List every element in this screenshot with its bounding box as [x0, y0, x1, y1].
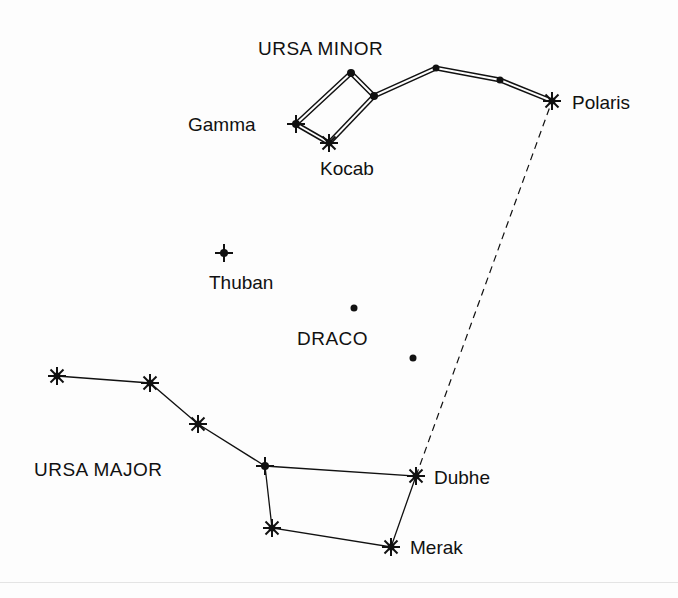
star-icon: [256, 457, 274, 475]
merak-star-icon: [382, 538, 400, 556]
ursa-major-label: URSA MAJOR: [34, 460, 163, 479]
star-chart: URSA MINOR Polaris Gamma Kocab Thuban DR…: [0, 0, 678, 598]
star-dot-icon: [351, 305, 358, 312]
star-icon: [263, 519, 281, 537]
star-chart-graphic: [0, 0, 678, 598]
thuban-label: Thuban: [209, 273, 273, 292]
kocab-label: Kocab: [320, 159, 374, 178]
ursa-minor-lines-inner: [296, 68, 552, 143]
gamma-label: Gamma: [188, 115, 256, 134]
star-dot-icon: [370, 92, 378, 100]
polaris-label: Polaris: [572, 93, 630, 112]
star-dot-icon: [410, 355, 417, 362]
merak-label: Merak: [410, 538, 463, 557]
star-icon: [141, 374, 159, 392]
star-dot-icon: [347, 69, 355, 77]
star-icon: [189, 415, 207, 433]
thuban-star-icon: [215, 244, 233, 262]
ursa-minor-label: URSA MINOR: [258, 39, 383, 58]
ursa-minor-lines: [296, 68, 552, 143]
kocab-star-icon: [320, 134, 338, 152]
dubhe-star-icon: [407, 467, 425, 485]
dubhe-label: Dubhe: [434, 468, 490, 487]
star-dot-icon: [497, 77, 504, 84]
bottom-edge: [0, 582, 678, 583]
star-icon: [48, 367, 66, 385]
star-dot-icon: [433, 65, 440, 72]
pointer-dashed-line: [416, 101, 552, 476]
draco-label: DRACO: [297, 329, 368, 348]
polaris-star-icon: [543, 92, 561, 110]
